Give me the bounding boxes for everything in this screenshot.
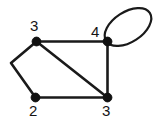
- vertex-label-top-left: 3: [30, 18, 38, 33]
- vertex-label-bottom-left: 2: [29, 103, 37, 118]
- vertex-top-right: [103, 37, 112, 46]
- edge-diagonal-v3-to-v3: [37, 42, 108, 98]
- edge-left-bent-v3-to-v2: [11, 42, 37, 98]
- graph-canvas: [0, 0, 160, 123]
- vertex-bottom-right: [103, 93, 112, 102]
- vertex-label-top-right: 4: [91, 24, 99, 39]
- vertex-bottom-left: [31, 93, 40, 102]
- vertex-label-bottom-right: 3: [102, 103, 110, 118]
- vertex-top-left: [32, 37, 41, 46]
- graph-diagram: 3 4 2 3: [0, 0, 160, 123]
